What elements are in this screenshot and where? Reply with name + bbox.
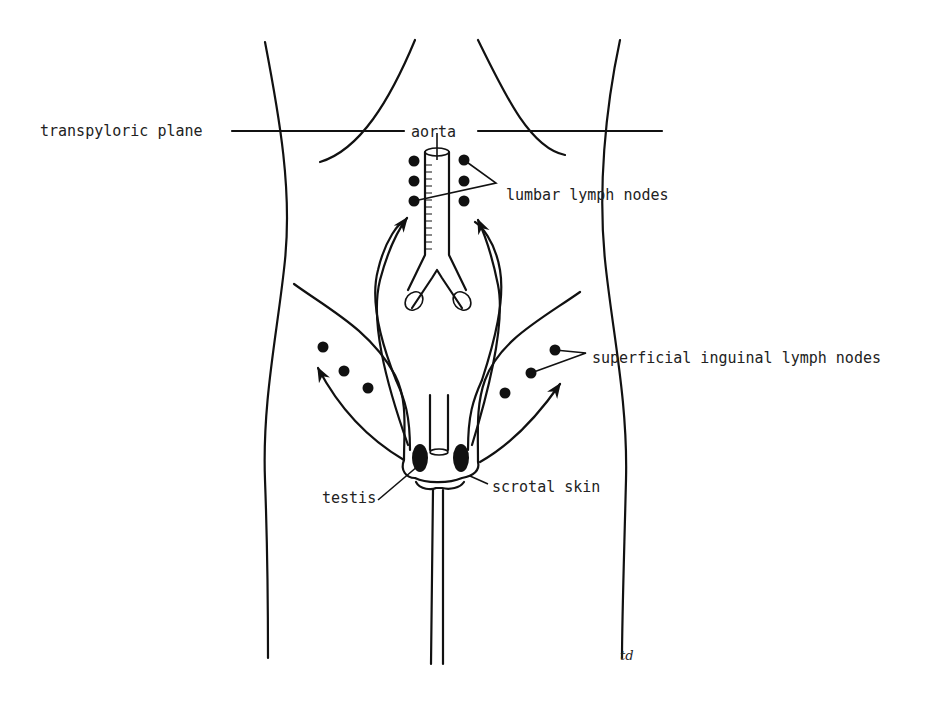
label-transpyloric-plane: transpyloric plane: [40, 122, 203, 140]
label-superficial-inguinal-lymph-nodes: superficial inguinal lymph nodes: [592, 349, 881, 367]
scrotum-and-cords: [294, 222, 580, 664]
label-testis: testis: [322, 489, 376, 507]
label-scrotal-skin: scrotal skin: [492, 478, 600, 496]
drainage-arrows: [318, 218, 560, 462]
lymphatic-drainage-diagram: transpyloric plane aorta lumbar lymph no…: [0, 0, 950, 704]
label-lumbar-lymph-nodes: lumbar lymph nodes: [506, 186, 669, 204]
lumbar-lymph-nodes: [409, 155, 497, 207]
artist-signature: td: [620, 648, 634, 663]
label-aorta: aorta: [411, 123, 456, 141]
superficial-inguinal-lymph-nodes: [318, 342, 587, 399]
testes: [412, 444, 469, 472]
